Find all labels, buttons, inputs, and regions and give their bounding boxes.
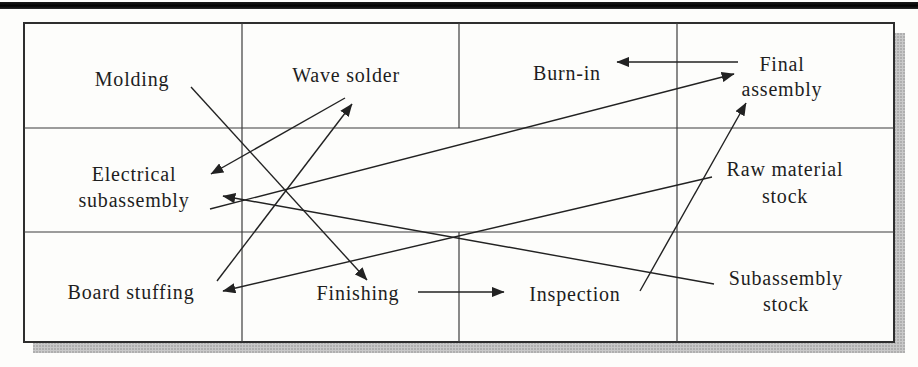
- dept-label-burn-in: Burn-in: [533, 62, 601, 84]
- dept-label-molding: Molding: [95, 68, 170, 91]
- facility-layout-diagram: MoldingWave solderBurn-inFinalassemblyEl…: [0, 0, 918, 367]
- shadow-band-0: [894, 33, 905, 353]
- dept-label-board-stuffing: Board stuffing: [68, 281, 195, 304]
- dept-label-finishing: Finishing: [317, 282, 400, 305]
- shadow-band-1: [33, 342, 905, 353]
- dept-label-wave-solder: Wave solder: [292, 64, 400, 86]
- dept-label-inspection: Inspection: [529, 283, 620, 306]
- figure-page: MoldingWave solderBurn-inFinalassemblyEl…: [0, 0, 918, 367]
